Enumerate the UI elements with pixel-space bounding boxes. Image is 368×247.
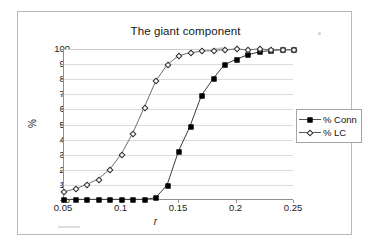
plot-area	[63, 49, 293, 200]
y-axis-title: %	[27, 119, 38, 128]
x-tick-label: 0.15	[158, 203, 198, 213]
legend-label-lc: % LC	[321, 127, 346, 138]
legend-label-conn: % Conn	[321, 114, 357, 125]
chart-legend: % Conn % LC	[296, 109, 362, 143]
series-lines	[64, 49, 293, 199]
series-line	[64, 49, 293, 192]
x-tick-label: 0.2	[216, 203, 256, 213]
x-tick-label: 0.25	[273, 203, 313, 213]
chart-title: The giant component	[18, 25, 353, 37]
x-tick-mark	[121, 200, 122, 203]
x-tick-mark	[178, 200, 179, 203]
x-tick-label: 0.05	[43, 203, 83, 213]
series-line	[64, 50, 293, 200]
legend-item-conn: % Conn	[299, 113, 357, 126]
x-tick-mark	[63, 200, 64, 203]
x-axis-title: r	[18, 216, 293, 227]
x-tick-label: 0.1	[101, 203, 141, 213]
x-tick-mark	[236, 200, 237, 203]
legend-item-lc: % LC	[299, 126, 357, 139]
legend-key-filled-square-icon	[299, 114, 321, 125]
chart-page-frame: The giant component % r 0102030405060708…	[17, 11, 352, 235]
x-tick-mark	[293, 200, 294, 203]
legend-key-open-diamond-icon	[299, 127, 321, 138]
